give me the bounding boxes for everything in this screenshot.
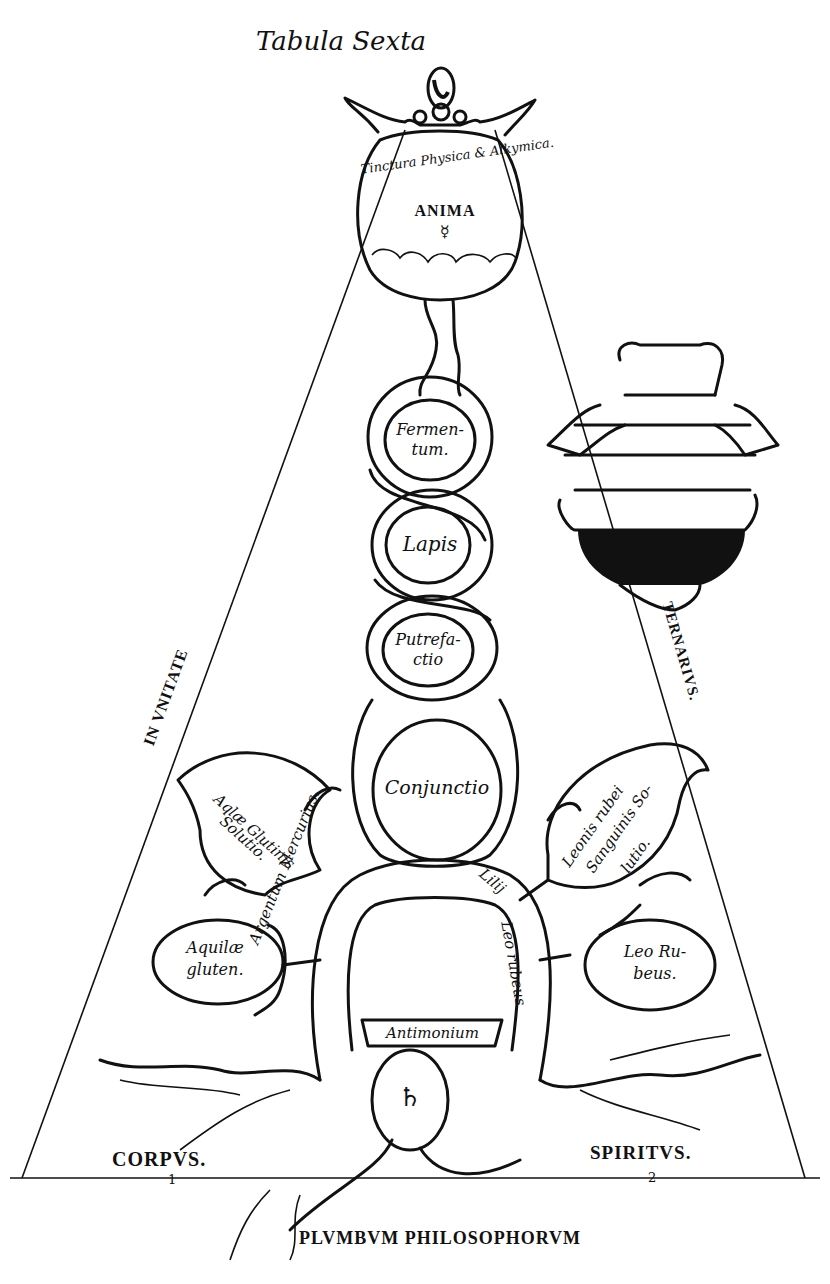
conjunctio-label: Conjunctio bbox=[372, 776, 502, 798]
antimonium-label: Antimonium bbox=[365, 1024, 500, 1042]
spiritus-number: 2 bbox=[648, 1170, 656, 1185]
putrefactio-line1: Putrefa- bbox=[383, 630, 473, 649]
leaf-right-lower-line2: beus. bbox=[615, 964, 695, 983]
striped-vessel bbox=[548, 343, 778, 610]
corpus-number: 1 bbox=[168, 1172, 176, 1187]
mercury-symbol: ☿ bbox=[425, 222, 465, 241]
fermentum-line1: Fermen- bbox=[395, 420, 465, 439]
corpus-label: CORPVS. bbox=[112, 1148, 206, 1171]
caption-plumbum: PLVMBVM PHILOSOPHORVM bbox=[250, 1228, 630, 1249]
leaf-right-lower-line1: Leo Ru- bbox=[615, 942, 695, 961]
putrefactio-line2: ctio bbox=[383, 650, 473, 669]
fermentum-line2: tum. bbox=[395, 440, 465, 459]
crown bbox=[345, 68, 535, 135]
lapis-label: Lapis bbox=[385, 532, 475, 556]
leaf-left-lower-line2: gluten. bbox=[170, 960, 260, 979]
plate-title: Tabula Sexta bbox=[256, 26, 426, 56]
base-flask bbox=[290, 1050, 520, 1230]
leaf-left-lower-line1: Aquilæ bbox=[170, 938, 260, 957]
spiritus-label: SPIRITVS. bbox=[590, 1142, 691, 1164]
anima-label: ANIMA bbox=[395, 202, 495, 220]
saturn-symbol: ♄ bbox=[390, 1082, 430, 1112]
